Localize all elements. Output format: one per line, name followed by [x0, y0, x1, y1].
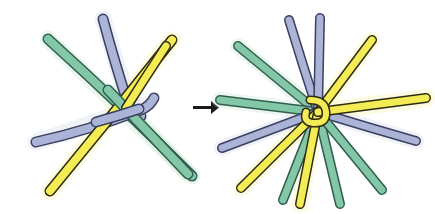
- figure-root: [0, 0, 435, 214]
- stick-illustration-canvas: [0, 0, 435, 214]
